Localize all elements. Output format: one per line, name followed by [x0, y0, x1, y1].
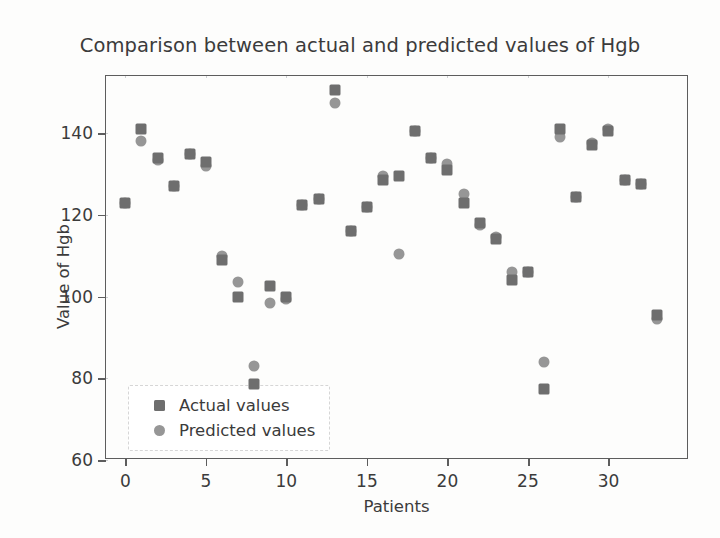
x-axis-tick-label: 30	[598, 471, 620, 491]
y-axis-tick-label: 100	[61, 287, 93, 307]
actual-value-point	[184, 148, 195, 159]
actual-value-point	[200, 156, 211, 167]
predicted-value-point	[329, 97, 340, 108]
x-axis-tick	[608, 458, 610, 466]
predicted-value-point	[265, 297, 276, 308]
legend-item-label: Predicted values	[179, 421, 315, 440]
actual-value-point	[265, 281, 276, 292]
y-axis-tick	[98, 133, 106, 135]
predicted-value-point	[233, 277, 244, 288]
actual-value-point	[619, 175, 630, 186]
actual-value-point	[571, 191, 582, 202]
actual-value-point	[361, 201, 372, 212]
x-axis-tick	[367, 458, 369, 466]
actual-value-point	[216, 254, 227, 265]
y-axis-tick-label: 80	[71, 368, 93, 388]
actual-value-point	[603, 126, 614, 137]
x-axis-tick-label: 25	[517, 471, 539, 491]
y-axis-tick	[98, 215, 106, 217]
actual-value-point	[233, 291, 244, 302]
x-axis-tick-label: 0	[120, 471, 131, 491]
actual-value-point	[539, 383, 550, 394]
legend-item: Actual values	[139, 393, 315, 418]
actual-value-point	[410, 126, 421, 137]
x-axis-tick	[206, 458, 208, 466]
predicted-value-point	[249, 361, 260, 372]
y-axis-tick-label: 140	[61, 123, 93, 143]
y-axis-tick	[98, 297, 106, 299]
x-axis-tick	[528, 458, 530, 466]
actual-value-point	[249, 379, 260, 390]
x-axis-tick	[125, 458, 127, 466]
actual-value-point	[152, 152, 163, 163]
actual-value-point	[120, 197, 131, 208]
actual-value-point	[651, 309, 662, 320]
actual-value-point	[313, 193, 324, 204]
actual-value-point	[442, 164, 453, 175]
predicted-value-point	[136, 136, 147, 147]
actual-value-point	[329, 85, 340, 96]
actual-value-point	[555, 124, 566, 135]
chart-legend: Actual values Predicted values	[128, 385, 330, 451]
actual-value-point	[345, 226, 356, 237]
x-axis-tick-label: 20	[437, 471, 459, 491]
actual-value-point	[168, 181, 179, 192]
actual-value-point	[522, 267, 533, 278]
predicted-value-point	[394, 248, 405, 259]
x-axis-tick-label: 10	[276, 471, 298, 491]
y-axis-tick	[98, 378, 106, 380]
actual-value-point	[490, 234, 501, 245]
y-axis-tick	[98, 460, 106, 462]
x-axis-tick-label: 5	[200, 471, 211, 491]
predicted-values-circle-icon	[139, 425, 179, 436]
matplotlib-figure: Comparison between actual and predicted …	[0, 0, 720, 538]
actual-value-point	[506, 275, 517, 286]
gridline-horizontal	[106, 460, 687, 461]
actual-value-point	[635, 179, 646, 190]
actual-value-point	[136, 124, 147, 135]
y-axis-tick-label: 120	[61, 205, 93, 225]
actual-value-point	[297, 199, 308, 210]
actual-value-point	[587, 140, 598, 151]
legend-item-label: Actual values	[179, 396, 290, 415]
actual-value-point	[458, 197, 469, 208]
predicted-value-point	[539, 356, 550, 367]
actual-value-point	[281, 291, 292, 302]
actual-values-square-icon	[139, 400, 179, 411]
actual-value-point	[426, 152, 437, 163]
y-axis-tick-label: 60	[71, 450, 93, 470]
page-title: Comparison between actual and predicted …	[0, 34, 720, 57]
x-axis-tick	[447, 458, 449, 466]
legend-item: Predicted values	[139, 418, 315, 443]
x-axis-tick	[286, 458, 288, 466]
actual-value-point	[394, 171, 405, 182]
actual-value-point	[378, 175, 389, 186]
actual-value-point	[474, 218, 485, 229]
x-axis-label: Patients	[105, 497, 688, 516]
x-axis-tick-label: 15	[356, 471, 378, 491]
